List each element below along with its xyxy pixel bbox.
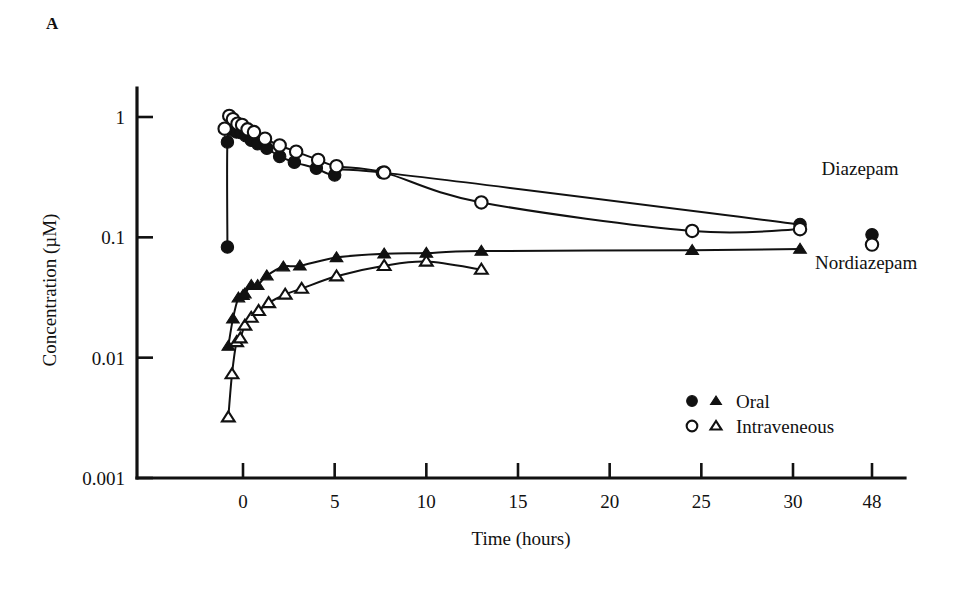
concentration-vs-time-chart: 10.10.010.001 05101520253048 Time (hours… [0,0,962,589]
x-tick-label: 0 [238,491,248,512]
curve-nordiazepam-oral [228,249,800,346]
x-axis-title: Time (hours) [471,528,570,550]
data-point-open-circle [290,145,302,157]
chart-legend: OralIntraveneous [687,391,834,437]
y-axis-title: Concentration (µM) [39,214,61,367]
series-diazepam-intraveneous-48h- [866,238,878,250]
data-point-filled-triangle [227,313,240,323]
data-point-open-circle [686,225,698,237]
data-point-open-triangle [262,297,275,307]
x-axis-ticks [243,463,872,478]
annotation-nordiazepam: Nordiazepam [815,252,918,273]
data-point-open-circle [794,223,806,235]
annotation-diazepam: Diazepam [822,158,899,179]
y-axis-ticks [137,117,153,478]
x-tick-label: 30 [784,491,803,512]
data-point-open-triangle [711,421,722,430]
x-tick-label: 20 [600,491,619,512]
x-tick-label: 48 [863,491,882,512]
data-point-filled-triangle [711,396,722,405]
series-diazepam-intraveneous [218,110,806,237]
curve-nordiazepam-intraveneous [228,261,481,417]
y-tick-label: 0.001 [82,468,125,489]
data-point-open-circle [312,154,324,166]
legend-label: Oral [736,391,770,412]
series-annotations: DiazepamNordiazepam [815,158,918,273]
series-nordiazepam-oral [222,243,806,350]
data-point-open-circle [687,421,698,432]
x-tick-label: 5 [330,491,340,512]
legend-label: Intraveneous [736,416,834,437]
data-point-open-triangle [226,368,239,378]
y-tick-label: 0.01 [92,348,125,369]
data-point-filled-triangle [260,270,273,280]
x-axis-tick-labels: 05101520253048 [238,491,881,512]
curve-diazepam-oral [227,129,800,247]
data-point-open-circle [866,238,878,250]
data-point-open-circle [273,139,285,151]
data-point-open-circle [475,196,487,208]
x-tick-label: 25 [692,491,711,512]
y-axis-tick-labels: 10.10.010.001 [82,107,125,489]
figure-panel-a: A 10.10.010.001 05101520253048 Time (hou… [0,0,962,589]
data-point-open-triangle [222,411,235,421]
legend-item-oral: Oral [687,391,770,412]
series-curves [225,116,800,418]
data-point-filled-circle [221,241,233,253]
data-point-open-circle [378,166,390,178]
data-point-filled-circle [221,136,233,148]
legend-item-intraveneous: Intraveneous [687,416,834,437]
y-tick-label: 1 [116,107,126,128]
data-point-open-circle [259,133,271,145]
series-markers [218,110,878,422]
x-tick-label: 15 [509,491,528,512]
data-point-open-circle [330,160,342,172]
y-tick-label: 0.1 [101,227,125,248]
curve-diazepam-intraveneous [225,116,800,233]
x-tick-label: 10 [417,491,436,512]
data-point-filled-circle [687,396,698,407]
